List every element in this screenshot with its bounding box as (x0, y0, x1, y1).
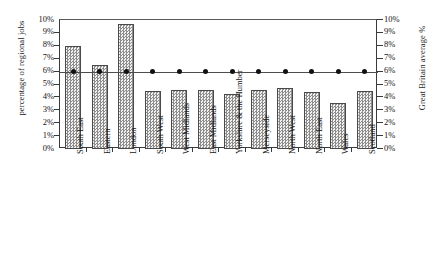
x-category-label: London (129, 128, 138, 154)
x-tick-mark (192, 148, 193, 152)
y-tick-mark-left (54, 122, 59, 123)
chart-container: percentage of regional jobs Great Britai… (0, 0, 442, 270)
y-tick-mark-left (54, 135, 59, 136)
x-category-label: West Midlands (182, 103, 191, 154)
x-category-label: South West (156, 115, 165, 154)
x-tick-mark (245, 148, 246, 152)
x-category-label: East Midlands (209, 105, 218, 154)
x-category-label: North West (288, 115, 297, 154)
x-category-label: North East (315, 117, 324, 154)
y-tick-mark-right (377, 148, 383, 149)
x-category-label: Merseyside (262, 115, 271, 154)
x-tick-mark (324, 148, 325, 152)
x-category-label: South East (76, 117, 85, 154)
x-tick-mark (139, 148, 140, 152)
y-tick-mark-left (54, 45, 59, 46)
x-tick-mark (351, 148, 352, 152)
y-tick-mark-left (54, 84, 59, 85)
y-tick-mark-right (377, 58, 383, 59)
x-category-label: Wales (341, 133, 350, 154)
x-category-label: Scotland (368, 124, 377, 154)
x-tick-mark (165, 148, 166, 152)
x-axis-category-labels: South EastEasternLondonSouth WestWest Mi… (0, 0, 442, 270)
x-category-label: Eastern (103, 129, 112, 155)
y-tick-mark-left (54, 58, 59, 59)
y-tick-mark-right (377, 135, 383, 136)
y-tick-mark-left (54, 96, 59, 97)
y-tick-mark-left (54, 32, 59, 33)
x-category-label: Yorkshire & the Humber (235, 70, 244, 154)
y-tick-mark-right (377, 96, 383, 97)
y-tick-mark-right (377, 84, 383, 85)
y-tick-mark-right (377, 71, 383, 72)
y-tick-mark-left (54, 71, 59, 72)
x-tick-mark (298, 148, 299, 152)
y-tick-mark-right (377, 122, 383, 123)
x-tick-mark (271, 148, 272, 152)
x-tick-mark (218, 148, 219, 152)
x-tick-mark (86, 148, 87, 152)
y-tick-mark-right (377, 19, 383, 20)
y-tick-mark-left (54, 109, 59, 110)
y-tick-mark-right (377, 45, 383, 46)
y-tick-mark-right (377, 32, 383, 33)
y-tick-mark-right (377, 109, 383, 110)
x-tick-mark (112, 148, 113, 152)
